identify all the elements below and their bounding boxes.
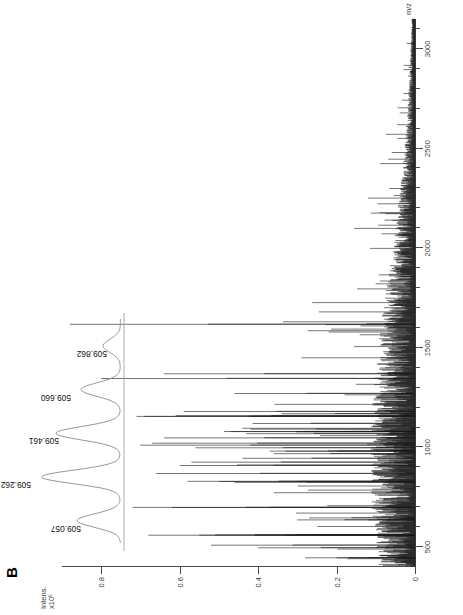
isotope-peak-label: 509.262 — [1, 480, 31, 490]
spectrum-plot: m/z Intens. x10⁵ 50010001500200025003000… — [0, 0, 463, 615]
isotope-inset-trace — [12, 307, 132, 557]
isotope-inset: 509.057509.262509.461509.660509.862 — [12, 307, 136, 557]
isotope-peak-label: 509.862 — [76, 349, 106, 359]
isotope-peak-label: 509.057 — [50, 524, 80, 534]
isotope-peak-label: 509.660 — [40, 393, 70, 403]
isotope-peak-label: 509.461 — [29, 436, 59, 446]
figure-panel: B m/z Intens. x10⁵ 500100015002000250030… — [0, 0, 463, 615]
